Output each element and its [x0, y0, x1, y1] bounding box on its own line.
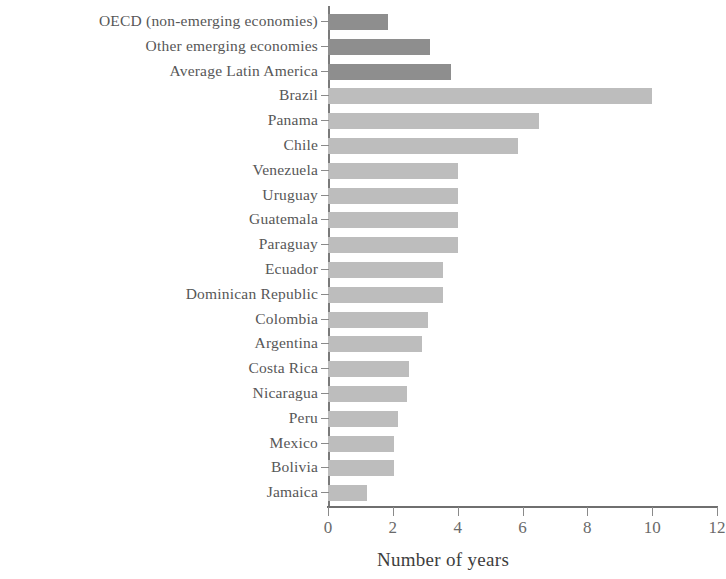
bar-brazil: [328, 88, 652, 104]
bar-ecuador: [328, 262, 443, 278]
category-tick: [321, 195, 329, 196]
bar-row: [328, 134, 717, 159]
category-label: Chile: [0, 136, 318, 153]
bar-row: [328, 332, 717, 357]
bar-row: [328, 283, 717, 308]
category-label: Uruguay: [0, 186, 318, 203]
category-label: Brazil: [0, 86, 318, 103]
category-tick: [321, 95, 329, 96]
bar-row: [328, 10, 717, 35]
category-tick: [321, 269, 329, 270]
category-tick: [321, 418, 329, 419]
bar-row: [328, 432, 717, 457]
value-axis-tick: [458, 507, 459, 516]
value-axis-tick: [587, 507, 588, 516]
bar-row: [328, 382, 717, 407]
category-label: Paraguay: [0, 235, 318, 252]
bar-bolivia: [328, 460, 394, 476]
category-tick: [321, 368, 329, 369]
bar-argentina: [328, 336, 422, 352]
category-tick: [321, 319, 329, 320]
category-label: Dominican Republic: [0, 285, 318, 302]
category-label: Nicaragua: [0, 384, 318, 401]
value-axis-tick-label: 0: [308, 518, 348, 538]
category-label: Ecuador: [0, 260, 318, 277]
category-tick: [321, 21, 329, 22]
category-label: Guatemala: [0, 210, 318, 227]
bar-row: [328, 456, 717, 481]
value-axis-tick: [717, 507, 718, 516]
x-axis-title: Number of years: [0, 549, 726, 571]
value-axis-tick: [523, 507, 524, 516]
category-tick: [321, 46, 329, 47]
bar-paraguay: [328, 237, 458, 253]
bar-row: [328, 184, 717, 209]
bar-other-emerging-economies: [328, 39, 430, 55]
category-label: OECD (non-emerging economies): [0, 12, 318, 29]
category-label: Peru: [0, 409, 318, 426]
category-tick: [321, 343, 329, 344]
bar-mexico: [328, 436, 394, 452]
category-label: Panama: [0, 111, 318, 128]
bar-average-latin-america: [328, 64, 451, 80]
x-axis-title-text: Number of years: [377, 549, 509, 571]
category-label: Costa Rica: [0, 359, 318, 376]
category-tick: [321, 294, 329, 295]
category-tick: [321, 120, 329, 121]
category-label: Other emerging economies: [0, 37, 318, 54]
bar-row: [328, 84, 717, 109]
bar-row: [328, 35, 717, 60]
bar-row: [328, 233, 717, 258]
value-axis-tick-label: 4: [438, 518, 478, 538]
bar-row: [328, 258, 717, 283]
bar-row: [328, 407, 717, 432]
bar-row: [328, 481, 717, 506]
category-tick: [321, 467, 329, 468]
bar-row: [328, 109, 717, 134]
bar-venezuela: [328, 163, 458, 179]
value-axis-tick-label: 2: [373, 518, 413, 538]
bar-row: [328, 308, 717, 333]
bar-jamaica: [328, 485, 367, 501]
bar-chile: [328, 138, 518, 154]
category-tick: [321, 71, 329, 72]
bar-peru: [328, 411, 398, 427]
category-tick: [321, 170, 329, 171]
value-axis-tick-label: 10: [632, 518, 672, 538]
category-tick: [321, 393, 329, 394]
bar-row: [328, 159, 717, 184]
value-axis-tick: [328, 507, 329, 516]
value-axis-tick: [652, 507, 653, 516]
bar-panama: [328, 113, 539, 129]
category-label: Venezuela: [0, 161, 318, 178]
bar-nicaragua: [328, 386, 407, 402]
bar-dominican-republic: [328, 287, 443, 303]
bar-costa-rica: [328, 361, 409, 377]
category-label: Average Latin America: [0, 62, 318, 79]
bar-uruguay: [328, 188, 458, 204]
category-label: Mexico: [0, 434, 318, 451]
category-label: Jamaica: [0, 483, 318, 500]
value-axis-tick-label: 6: [503, 518, 543, 538]
category-tick: [321, 443, 329, 444]
category-tick: [321, 219, 329, 220]
bar-row: [328, 60, 717, 85]
bar-chart-figure: OECD (non-emerging economies)Other emerg…: [0, 0, 726, 579]
category-label: Bolivia: [0, 458, 318, 475]
bar-oecd-non-emerging-economies: [328, 14, 388, 30]
bar-row: [328, 208, 717, 233]
value-axis-tick: [393, 507, 394, 516]
bar-row: [328, 357, 717, 382]
value-axis-tick-label: 12: [697, 518, 726, 538]
category-tick: [321, 244, 329, 245]
bar-colombia: [328, 312, 428, 328]
category-label: Argentina: [0, 334, 318, 351]
category-label: Colombia: [0, 310, 318, 327]
category-tick: [321, 145, 329, 146]
value-axis-tick-label: 8: [567, 518, 607, 538]
category-tick: [321, 492, 329, 493]
bar-guatemala: [328, 212, 458, 228]
